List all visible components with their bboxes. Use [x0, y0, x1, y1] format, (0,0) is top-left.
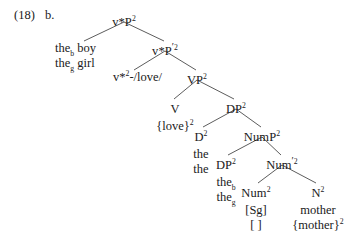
node-label-base: v*P [112, 15, 132, 29]
tree-node-N: N2 [311, 187, 324, 200]
vstar-base: v* [113, 70, 126, 84]
terminal-n-exponents: mother{mother}2 [292, 203, 343, 233]
node-label-base: Num [266, 158, 291, 172]
tree-node-DP-upper: DP2 [226, 103, 246, 116]
dp-lower-line-1: theb [216, 175, 235, 190]
tree-node-Num: Num2 [241, 187, 270, 200]
example-number: (18) [14, 8, 35, 23]
terminal-dp-lower-exponents: thebtheg [216, 175, 235, 205]
determiner-subscript: g [70, 63, 74, 72]
v-exponent-text: {love} [156, 119, 190, 133]
node-label-base: N [311, 186, 320, 200]
node-superscript: 2 [174, 43, 178, 52]
node-superscript: 2 [294, 157, 298, 166]
dp-lower-line-2: theg [216, 190, 235, 205]
node-label-base: Num [241, 186, 266, 200]
determiner-word: the [55, 56, 70, 70]
node-superscript: 2 [242, 101, 246, 110]
n-exponent-line-1: mother [292, 203, 343, 218]
noun-word: boy [77, 41, 96, 55]
noun-word: girl [77, 56, 94, 70]
subject-line-1: theb boy [55, 41, 96, 56]
tree-node-vstarP: v*P2 [112, 16, 136, 29]
n-exponent-superscript: 2 [340, 217, 344, 226]
example-sub-label: b. [45, 8, 54, 23]
tree-node-NumP: NumP2 [244, 131, 280, 144]
subject-line-2: theg girl [55, 56, 96, 71]
num-feature-line-1: [Sg] [245, 203, 267, 218]
tree-node-VP: VP2 [187, 74, 207, 87]
determiner-word: the [216, 175, 231, 189]
tree-node-D: D2 [194, 131, 207, 144]
node-label-base: v*P [152, 44, 172, 58]
node-superscript: 2 [204, 129, 208, 138]
determiner-word: the [55, 41, 70, 55]
tree-node-V: V [170, 103, 179, 116]
syntax-tree-figure: (18) b. v*P2 v*P′2 VP2 V DP2 D2 NumP2 DP… [0, 0, 358, 244]
node-superscript: 2 [203, 72, 207, 81]
terminal-subject-dp: theb boytheg girl [55, 41, 96, 71]
n-exponent-text: {mother} [292, 218, 339, 232]
node-superscript: 2 [276, 129, 280, 138]
node-label-base: D [194, 130, 203, 144]
terminal-vstar-love: v*2-/love/ [113, 70, 162, 85]
terminal-v-exponent: {love}2 [156, 119, 193, 134]
node-superscript: 2 [232, 157, 236, 166]
node-label-base: DP [216, 158, 232, 172]
num-feature-line-2: [ ] [245, 218, 267, 233]
d-exponent-line-2: the [193, 162, 208, 177]
d-exponent-line-1: the [193, 147, 208, 162]
terminal-d-exponents: thethe [193, 147, 208, 177]
node-label-base: NumP [244, 130, 276, 144]
tree-node-Num-bar: Num′2 [266, 159, 297, 172]
terminal-num-features: [Sg][ ] [245, 203, 267, 233]
node-label-base: DP [226, 102, 242, 116]
tree-node-vstarP-bar: v*P′2 [152, 45, 178, 58]
node-label-base: V [170, 102, 179, 116]
node-superscript: 2 [321, 185, 325, 194]
determiner-word: the [216, 190, 231, 204]
tree-node-DP-lower: DP2 [216, 159, 236, 172]
vstar-exponent-suffix: -/love/ [129, 70, 162, 84]
node-label-base: VP [187, 73, 203, 87]
v-exponent-superscript: 2 [190, 118, 194, 127]
node-superscript: 2 [132, 14, 136, 23]
determiner-subscript: g [232, 197, 236, 206]
n-exponent-line-2: {mother}2 [292, 218, 343, 233]
node-superscript: 2 [267, 185, 271, 194]
